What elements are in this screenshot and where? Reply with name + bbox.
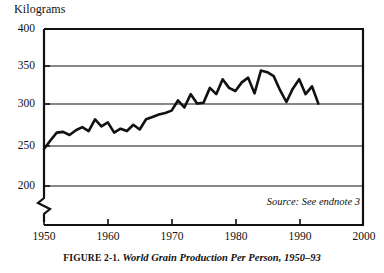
figure-container: Kilograms 400 350 300 250 200 1950 1960 … bbox=[0, 0, 384, 273]
figure-caption: FIGURE 2-1. World Grain Production Per P… bbox=[0, 252, 384, 263]
x-axis bbox=[44, 219, 364, 225]
source-note: Source: See endnote 3 bbox=[267, 196, 360, 207]
data-series-line bbox=[44, 71, 318, 149]
figure-number: FIGURE 2-1. bbox=[63, 253, 120, 263]
chart-plot-area bbox=[0, 0, 384, 273]
y-axis-break-icon bbox=[38, 196, 50, 222]
figure-title: World Grain Production Per Person, 1950–… bbox=[123, 252, 321, 263]
